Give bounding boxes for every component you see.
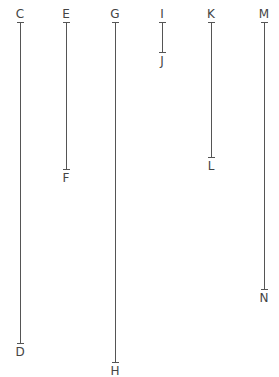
- segment-start-label: K: [203, 7, 219, 21]
- segment-end-tick: [112, 362, 119, 363]
- segment-end-label: H: [107, 364, 123, 377]
- segment-end-tick: [159, 52, 166, 53]
- segment-end-label: N: [256, 291, 272, 305]
- segment-start-label: C: [12, 7, 28, 21]
- segment-start-label: G: [107, 7, 123, 21]
- segment-end-label: L: [203, 159, 219, 173]
- segment-start-label: I: [154, 7, 170, 21]
- segment-start-label: M: [256, 7, 272, 21]
- segment-end-label: D: [12, 345, 28, 359]
- segment-line: [66, 22, 67, 169]
- segment-line: [162, 22, 163, 52]
- segment-line: [20, 22, 21, 343]
- segment-start-label: E: [58, 7, 74, 21]
- segment-end-tick: [17, 343, 24, 344]
- segment-line: [264, 22, 265, 289]
- segment-end-label: J: [154, 54, 170, 68]
- segment-line: [115, 22, 116, 362]
- segment-end-tick: [208, 157, 215, 158]
- segment-end-label: F: [58, 171, 74, 185]
- segment-line: [211, 22, 212, 157]
- segment-end-tick: [261, 289, 268, 290]
- segment-end-tick: [63, 169, 70, 170]
